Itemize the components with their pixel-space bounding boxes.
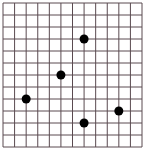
dot-grid-diagram bbox=[0, 0, 146, 151]
grid-point bbox=[114, 107, 123, 116]
grid-point bbox=[56, 71, 65, 80]
grid-point bbox=[22, 95, 31, 104]
grid-point bbox=[80, 119, 89, 128]
grid-point bbox=[80, 35, 89, 44]
